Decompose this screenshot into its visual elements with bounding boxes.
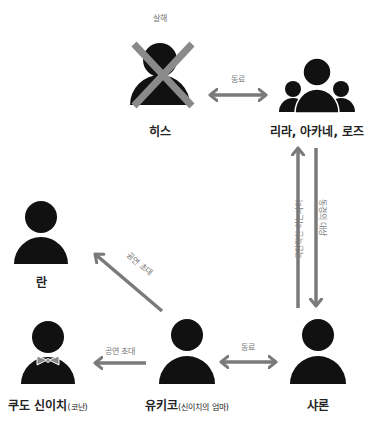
- yukiko-name-label: 유키코(신이치의 엄마): [145, 396, 229, 413]
- yukiko-sharon-edge-label: 동료: [241, 341, 255, 352]
- sharon-group-edge-label: 극단적인 아는사이: [293, 182, 304, 278]
- sharon-person-icon: [290, 319, 346, 384]
- shinichi-name-label: 쿠도 신이치(코난): [8, 396, 87, 413]
- yukiko-person-icon: [159, 319, 215, 384]
- relationship-diagram: [0, 0, 370, 433]
- shinichi-person-bowtie-icon: [21, 321, 75, 384]
- yukiko-to-ran-arrow: [95, 254, 162, 311]
- group-name-label: 리라, 아카네, 로즈: [270, 122, 364, 139]
- yukiko-shinichi-edge-label: 공연 초대: [105, 345, 136, 356]
- yukiko-note: (신이치의 엄마): [178, 403, 229, 412]
- heath-group-edge-label: 동료: [231, 73, 245, 84]
- ran-name-label: 란: [36, 273, 47, 290]
- group-sharon-edge-label: 동경의 대상: [318, 178, 329, 258]
- heath-name-label: 히스: [149, 122, 171, 139]
- heath-status-label: 살해: [153, 12, 167, 23]
- shinichi-note: (코난): [67, 403, 87, 412]
- sharon-name-label: 샤론: [307, 396, 329, 413]
- group-icon: [279, 58, 355, 113]
- ran-person-icon: [14, 201, 68, 264]
